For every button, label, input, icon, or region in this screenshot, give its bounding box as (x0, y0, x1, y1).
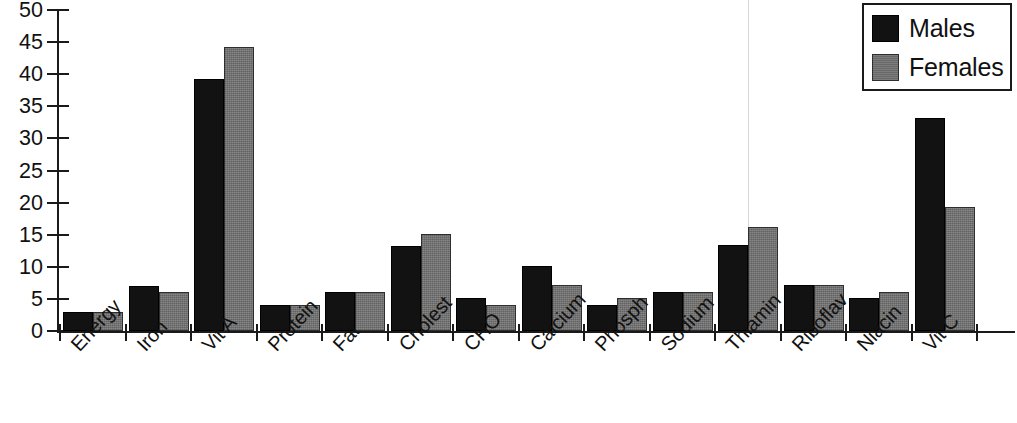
x-axis-tick (780, 324, 782, 341)
y-axis-tick (47, 9, 69, 11)
legend-swatch-females-icon (872, 54, 899, 81)
y-axis-tick (47, 137, 69, 139)
x-axis-tick (59, 324, 61, 341)
y-axis-tick-label: 20 (0, 192, 43, 214)
legend-swatch-males-icon (872, 15, 899, 42)
y-axis-tick (47, 41, 69, 43)
y-axis-tick-label: 35 (0, 95, 43, 117)
bar-vit-a-females (224, 47, 254, 331)
y-axis-tick (47, 170, 69, 172)
x-axis-tick (190, 324, 192, 341)
y-axis-tick (47, 298, 69, 300)
x-axis-tick (452, 324, 454, 341)
x-axis-tick (845, 324, 847, 341)
bar-fat-females (355, 292, 385, 331)
x-axis-tick (125, 324, 127, 341)
y-axis-tick-label: 15 (0, 224, 43, 246)
x-axis-tick (256, 324, 258, 341)
x-axis-tick (714, 324, 716, 341)
y-axis-tick (47, 105, 69, 107)
legend-item-females: Females (872, 50, 1003, 84)
x-axis-tick (911, 324, 913, 341)
y-axis-tick-label: 0 (0, 320, 43, 342)
y-axis-tick-label: 45 (0, 31, 43, 53)
y-axis-tick-label: 25 (0, 160, 43, 182)
y-axis-tick-label: 40 (0, 63, 43, 85)
x-axis-tick (518, 324, 520, 341)
legend: Males Females (862, 3, 1012, 91)
x-axis-tick (387, 324, 389, 341)
x-axis-tick (976, 324, 978, 341)
y-axis-tick (47, 234, 69, 236)
legend-label-females: Females (909, 54, 1003, 80)
x-axis-tick (583, 324, 585, 341)
y-axis-tick (47, 73, 69, 75)
legend-label-males: Males (909, 15, 975, 41)
y-axis-tick-label: 30 (0, 127, 43, 149)
bar-chart: 05101520253035404550 EnergyIronVit AProt… (0, 0, 1017, 423)
y-axis-tick-label: 5 (0, 288, 43, 310)
legend-item-males: Males (872, 11, 975, 45)
y-axis-tick (47, 202, 69, 204)
y-axis-tick-label: 10 (0, 256, 43, 278)
x-axis-tick (649, 324, 651, 341)
y-axis-tick (47, 266, 69, 268)
y-axis-tick-label: 50 (0, 0, 43, 21)
x-axis-tick (321, 324, 323, 341)
bar-vit-c-males (915, 118, 945, 331)
bar-vit-a-males (194, 79, 224, 331)
